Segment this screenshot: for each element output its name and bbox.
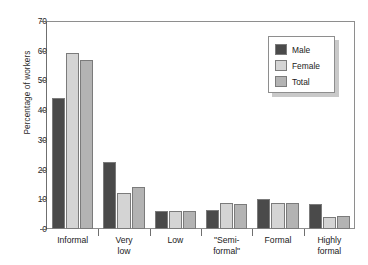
x-axis-category-label: "Semi-formal" (201, 235, 252, 256)
x-axis-category-label: Informal (47, 235, 98, 246)
y-axis-tick-mark (40, 229, 47, 230)
bar (206, 210, 219, 229)
x-axis-category-label: Highlyformal (304, 235, 355, 256)
legend-label: Total (292, 77, 310, 87)
legend-swatch (275, 60, 287, 71)
y-axis-tick: 20 (0, 170, 47, 171)
bar (183, 211, 196, 229)
y-axis-tick-mark (40, 21, 47, 22)
clipped-caption-text (28, 0, 348, 3)
bar (337, 216, 350, 229)
legend-label: Female (292, 61, 320, 71)
y-axis-tick: 30 (0, 140, 47, 141)
bar (117, 193, 130, 229)
bar (309, 204, 322, 229)
x-axis-label-line: Very (98, 235, 149, 246)
bar (80, 60, 93, 229)
y-axis-tick-mark (40, 110, 47, 111)
y-axis-tick: 50 (0, 80, 47, 81)
y-axis-tick: 60 (0, 51, 47, 52)
x-axis-label-line: Formal (252, 235, 303, 246)
legend-swatch (275, 76, 287, 87)
legend-item: Male (275, 42, 334, 57)
x-axis-label-line: formal" (201, 246, 252, 257)
legend-item: Female (275, 58, 334, 73)
x-axis-label-line: low (98, 246, 149, 257)
bar (103, 162, 116, 229)
y-axis-tick-mark (40, 140, 47, 141)
legend-label: Male (292, 45, 310, 55)
x-axis-label-line: Highly (304, 235, 355, 246)
y-axis-tick: 10 (0, 199, 47, 200)
bar (66, 53, 79, 229)
chart-legend: MaleFemaleTotal (268, 36, 335, 93)
y-axis-tick-mark (40, 170, 47, 171)
bar-group (206, 21, 248, 229)
x-axis-label-line: formal (304, 246, 355, 257)
legend-item: Total (275, 74, 334, 89)
x-axis-category-label: Formal (252, 235, 303, 246)
bar (132, 187, 145, 229)
y-axis-title: Percentage of workers (23, 18, 32, 168)
legend-swatch (275, 44, 287, 55)
x-axis-label-line: Informal (47, 235, 98, 246)
y-axis-tick-mark (40, 199, 47, 200)
bar-group (155, 21, 197, 229)
bar-chart-figure: Percentage of workers 010203040506070 In… (0, 0, 368, 265)
y-axis-tick-mark (40, 51, 47, 52)
bar (234, 204, 247, 229)
bar-group (103, 21, 145, 229)
bar (323, 217, 336, 229)
bar (271, 203, 284, 229)
bar (155, 211, 168, 229)
x-axis-category-label: Low (150, 235, 201, 246)
y-axis-tick: 70 (0, 21, 47, 22)
y-axis-tick-mark (40, 80, 47, 81)
x-axis-category-label: Verylow (98, 235, 149, 256)
bar (52, 98, 65, 229)
x-axis-label-line: Low (150, 235, 201, 246)
y-axis-tick: 40 (0, 110, 47, 111)
bar (286, 203, 299, 229)
y-axis-tick: 0 (0, 229, 47, 230)
bar-group (52, 21, 94, 229)
bar (220, 203, 233, 229)
bar (257, 199, 270, 229)
x-axis-label-line: "Semi- (201, 235, 252, 246)
bar (169, 211, 182, 229)
